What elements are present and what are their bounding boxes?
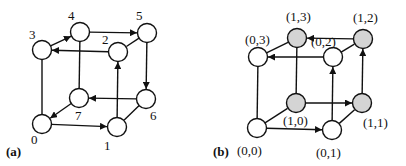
node-b-00 bbox=[248, 119, 267, 138]
panel-label-a: (a) bbox=[6, 144, 21, 159]
node-b-03 bbox=[249, 48, 268, 67]
node-b-10 bbox=[287, 94, 306, 113]
edge-a-5-2 bbox=[126, 38, 139, 46]
node-label-b-00: (0,0) bbox=[237, 143, 262, 158]
panel-a-ring-embedding: 01234567(a) bbox=[6, 8, 157, 159]
node-label-a-2: 2 bbox=[102, 32, 109, 47]
node-label-b-02: (0,2) bbox=[311, 34, 336, 49]
node-a-5 bbox=[138, 24, 157, 43]
node-label-a-1: 1 bbox=[104, 138, 111, 153]
edge-b-02-12 bbox=[341, 44, 354, 52]
node-a-3 bbox=[33, 41, 52, 60]
node-label-a-6: 6 bbox=[150, 108, 157, 123]
edge-b-01-11 bbox=[339, 110, 355, 124]
node-label-b-01: (0,1) bbox=[316, 145, 341, 160]
edge-a-6-1 bbox=[124, 106, 139, 120]
directed-edge-a-0-1 bbox=[51, 124, 107, 126]
directed-edge-a-6-7 bbox=[89, 98, 137, 99]
node-a-4 bbox=[71, 23, 90, 42]
directed-edge-a-4-5 bbox=[89, 32, 137, 33]
node-label-a-7: 7 bbox=[75, 108, 82, 123]
directed-edge-a-5-6 bbox=[146, 42, 147, 89]
node-label-a-4: 4 bbox=[68, 8, 75, 23]
directed-edge-a-7-0 bbox=[50, 103, 71, 118]
panel-b-mesh-embedding: (0,0)(0,1)(0,2)(0,3)(1,0)(1,1)(1,2)(1,3)… bbox=[213, 9, 388, 160]
directed-edge-b-01-02 bbox=[332, 67, 333, 121]
node-label-a-0: 0 bbox=[31, 132, 38, 147]
hypercube-diagram: 01234567(a) (0,0)(0,1)(0,2)(0,3)(1,0)(1,… bbox=[0, 0, 406, 166]
edge-a-4-7 bbox=[79, 41, 80, 88]
directed-edge-a-1-2 bbox=[117, 62, 118, 118]
node-a-7 bbox=[70, 89, 89, 108]
node-label-a-5: 5 bbox=[136, 8, 143, 23]
node-label-b-03: (0,3) bbox=[245, 32, 270, 47]
directed-edge-b-00-01 bbox=[266, 128, 322, 129]
node-b-11 bbox=[353, 94, 372, 113]
node-b-02 bbox=[324, 48, 343, 67]
node-b-13 bbox=[288, 29, 307, 48]
node-a-6 bbox=[137, 90, 156, 109]
node-a-0 bbox=[33, 115, 52, 134]
node-a-2 bbox=[109, 43, 128, 62]
edge-b-00-03 bbox=[257, 67, 258, 119]
node-label-b-11: (1,1) bbox=[363, 115, 388, 130]
node-label-b-10: (1,0) bbox=[283, 113, 308, 128]
node-b-01 bbox=[323, 121, 342, 140]
node-label-b-12: (1,2) bbox=[353, 10, 378, 25]
node-a-1 bbox=[108, 118, 127, 137]
panel-label-b: (b) bbox=[213, 144, 229, 159]
node-b-12 bbox=[354, 30, 373, 49]
edge-b-10-13 bbox=[296, 48, 297, 94]
node-label-b-13: (1,3) bbox=[286, 9, 311, 24]
directed-edge-b-11-12 bbox=[362, 49, 363, 94]
directed-edge-a-3-4 bbox=[51, 36, 71, 46]
node-label-a-3: 3 bbox=[29, 27, 36, 42]
